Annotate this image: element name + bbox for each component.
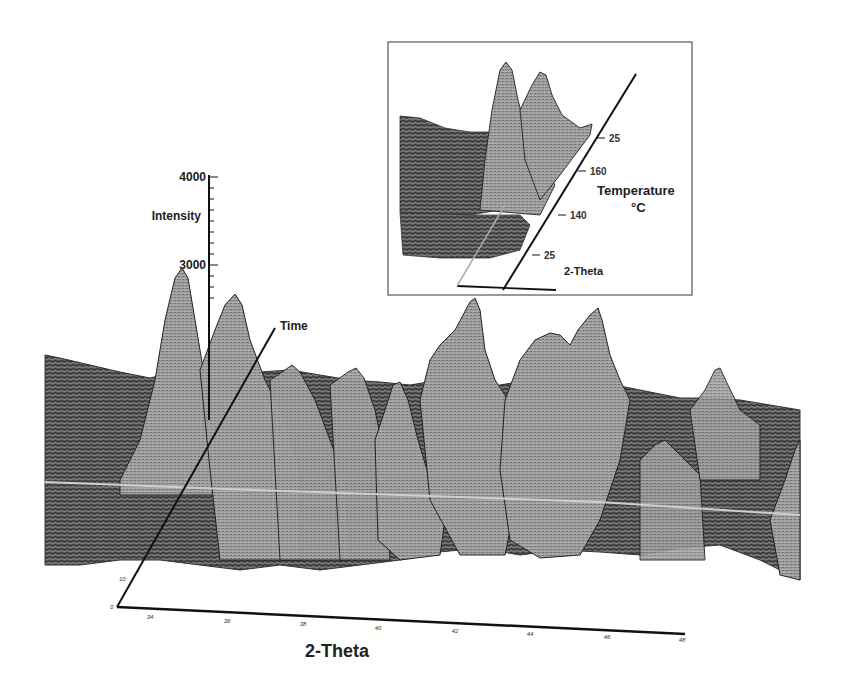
svg-text:36: 36 [224,618,231,624]
two-theta-label: 2-Theta [305,641,370,661]
svg-text:42: 42 [452,628,459,634]
y-tick-4000: 4000 [179,170,206,184]
xrd-surface-chart: 4000 3000 Intensity Time 0 10 34 36 38 4… [0,0,844,695]
peak-10 [690,368,760,480]
svg-text:46: 46 [604,634,611,640]
svg-text:34: 34 [147,614,154,620]
inset-temperature-unit: °C [631,200,646,215]
time-label: Time [280,319,308,333]
inset-tick-160: 160 [590,166,607,177]
inset-two-theta-label: 2-Theta [564,265,604,277]
inset-tick-25-bottom: 25 [544,250,556,261]
inset-chart: 25 160 140 25 Temperature °C 2-Theta [388,42,692,295]
z-tick-10: 10 [119,576,126,582]
two-theta-axis [117,607,685,634]
inset-front-mesh [400,212,530,258]
inset-temperature-label: Temperature [597,183,675,198]
intensity-label: Intensity [152,209,202,223]
y-tick-3000: 3000 [179,258,206,272]
inset-tick-25-top: 25 [609,133,621,144]
svg-text:48: 48 [679,637,686,643]
svg-text:44: 44 [527,631,534,637]
svg-text:40: 40 [375,625,382,631]
z-tick-0: 0 [110,604,114,610]
x-ticks: 34 36 38 40 42 44 46 48 [147,614,686,643]
svg-text:38: 38 [300,621,307,627]
inset-tick-140: 140 [570,210,587,221]
